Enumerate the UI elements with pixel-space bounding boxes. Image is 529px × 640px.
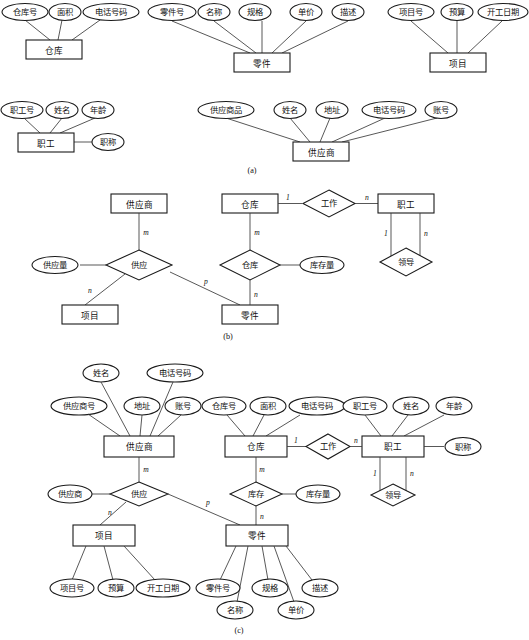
card-work-employee-n-b: n — [365, 193, 369, 202]
entity-supplier-b: 供应商 — [111, 194, 167, 213]
edge-c-supplier-no — [88, 414, 120, 436]
attribute-c-employee-title-label: 职称 — [455, 442, 471, 452]
entity-warehouse-c: 仓库 — [225, 436, 287, 457]
attribute-part-desc: 描述 — [332, 4, 364, 21]
entity-project-c-label: 项目 — [95, 531, 113, 541]
edge-part-desc — [282, 21, 348, 53]
group-project-a: 项目 项目号 预算 开工日期 — [388, 4, 528, 73]
entity-supplier-a: 供应商 — [293, 142, 349, 161]
attribute-supplier-account-label: 账号 — [433, 106, 449, 115]
entity-warehouse-b-label: 仓库 — [241, 199, 259, 210]
attribute-c-warehouse-area-label: 面积 — [260, 401, 276, 411]
entity-part-b: 零件 — [222, 305, 278, 324]
attribute-c-part-spec-label: 规格 — [262, 583, 279, 593]
attribute-c-part-name-label: 名称 — [227, 605, 243, 615]
attribute-part-no-label: 零件号 — [160, 7, 184, 17]
edge-supplier-account — [342, 118, 437, 142]
attribute-warehouse-no-label: 仓库号 — [13, 7, 37, 17]
group-supplier-a: 供应商 供应商品 姓名 地址 电话号码 账号 — [198, 102, 457, 162]
section-b-caption: (b) — [223, 332, 233, 341]
attribute-supplier-address-label: 地址 — [324, 105, 340, 115]
relationship-work-c: 工作 — [306, 434, 350, 459]
attribute-c-project-no: 项目号 — [50, 579, 94, 597]
attribute-supplier-goods-label: 供应商品 — [210, 105, 242, 115]
attribute-c-employee-name-label: 姓名 — [403, 401, 419, 411]
attribute-c-stock-qty: 库存量 — [296, 485, 340, 503]
entity-warehouse-b: 仓库 — [222, 194, 278, 213]
entity-supplier-b-label: 供应商 — [126, 199, 153, 210]
attribute-employee-title: 职称 — [92, 134, 124, 151]
entity-project-a-label: 项目 — [449, 59, 467, 69]
attribute-warehouse-area: 面积 — [49, 4, 81, 21]
attribute-project-startdate: 开工日期 — [478, 4, 528, 21]
edge-c-supplier-account — [158, 415, 181, 436]
section-c: 姓名 电话号码 供应商号 地址 账号 供应商 仓库号 — [48, 364, 481, 635]
attribute-c-part-name: 名称 — [217, 601, 253, 619]
attribute-employee-name-label: 姓名 — [54, 105, 70, 115]
attribute-c-warehouse-phone: 电话号码 — [289, 397, 345, 415]
attribute-c-warehouse-phone-label: 电话号码 — [301, 401, 333, 411]
card-c-stock-m: m — [259, 465, 265, 474]
edge-c-part-no — [220, 546, 236, 580]
entity-project-b: 项目 — [62, 305, 118, 324]
relationship-stock-b-label: 仓库 — [242, 260, 258, 270]
card-warehouse-stock-m-b: m — [254, 228, 260, 237]
relationship-supply-b-label: 供应 — [131, 260, 147, 270]
attribute-project-budget-label: 预算 — [449, 7, 465, 17]
entity-part-c-label: 零件 — [248, 530, 266, 541]
attribute-c-part-price: 单价 — [278, 601, 314, 619]
edge-c-warehouse-area — [253, 415, 264, 436]
attribute-c-warehouse-no-label: 仓库号 — [212, 401, 236, 411]
relationship-stock-c: 库存 — [230, 482, 282, 506]
edge-c-supply-part — [168, 494, 240, 525]
edge-project-no — [411, 21, 448, 53]
attribute-part-name-label: 名称 — [206, 7, 222, 17]
attribute-c-part-spec: 规格 — [252, 579, 288, 597]
entity-project-c: 项目 — [73, 525, 135, 546]
relationship-work-c-label: 工作 — [320, 441, 336, 451]
attribute-c-employee-title: 职称 — [445, 438, 481, 456]
attribute-c-part-price-label: 单价 — [288, 605, 305, 615]
entity-project-b-label: 项目 — [81, 311, 99, 321]
relationship-stock-b: 仓库 — [220, 250, 280, 280]
attribute-c-supplier-account-label: 账号 — [175, 402, 191, 411]
attribute-stock-qty-b: 库存量 — [300, 257, 344, 274]
attribute-supplier-account: 账号 — [425, 102, 457, 119]
attribute-c-supplier-name: 姓名 — [83, 364, 119, 382]
er-diagram-figure: 仓库 仓库号 面积 电话号码 零件 — [0, 0, 529, 640]
entity-employee-b-label: 职工 — [397, 200, 415, 210]
attribute-supplier-phone: 电话号码 — [362, 102, 416, 119]
attribute-part-spec: 规格 — [239, 4, 271, 21]
attribute-c-part-desc: 描述 — [302, 579, 338, 597]
edge-employee-no — [24, 118, 40, 133]
relationship-supply-c-label: 供应 — [131, 489, 147, 499]
attribute-c-project-startdate-label: 开工日期 — [147, 584, 179, 593]
attribute-project-budget: 预算 — [441, 4, 473, 21]
entity-supplier-c-label: 供应商 — [126, 441, 153, 452]
edge-c-warehouse-phone — [266, 415, 300, 436]
relationship-supply-c: 供应 — [110, 482, 168, 506]
edge-warehouse-no — [25, 20, 50, 40]
edge-supplier-address — [320, 118, 330, 142]
relationship-lead-b-label: 领导 — [398, 257, 414, 267]
card-lead-n-b: n — [424, 229, 428, 238]
card-supplier-supply-m-b: m — [143, 228, 149, 237]
attribute-warehouse-area-label: 面积 — [57, 7, 73, 17]
attribute-c-employee-age-label: 年龄 — [446, 401, 463, 411]
edge-warehouse-area — [58, 20, 62, 40]
attribute-supplier-phone-label: 电话号码 — [373, 105, 405, 115]
edge-supplier-name — [290, 118, 310, 142]
attribute-part-spec-label: 规格 — [247, 7, 264, 17]
edge-c-employee-no — [365, 415, 381, 436]
attribute-employee-age: 年龄 — [82, 102, 114, 119]
attribute-employee-no-label: 职工号 — [10, 106, 34, 115]
attribute-project-startdate-label: 开工日期 — [487, 8, 519, 17]
attribute-employee-age-label: 年龄 — [90, 105, 107, 115]
attribute-project-no-label: 项目号 — [399, 8, 423, 17]
attribute-part-price-label: 单价 — [298, 7, 315, 17]
edge-employee-name — [50, 118, 62, 133]
edge-c-supplier-address — [140, 415, 142, 436]
entity-employee-a-label: 职工 — [37, 139, 55, 149]
card-c-work-1: 1 — [294, 436, 298, 445]
attribute-c-supply-qty: 供应商 — [48, 485, 92, 503]
